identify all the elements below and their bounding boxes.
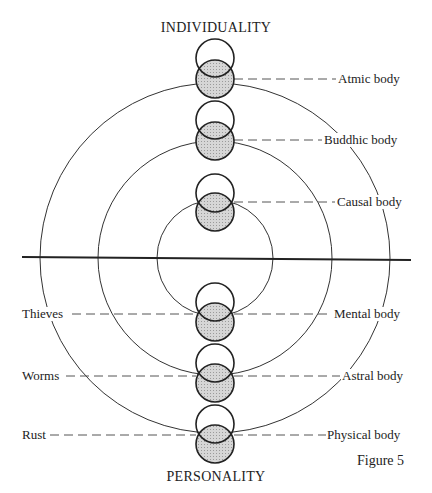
pair-astral — [196, 344, 234, 402]
pair-atmic — [196, 39, 234, 98]
bottom-label: PERSONALITY — [0, 469, 432, 485]
left-leader-lines — [50, 314, 196, 435]
label-physical-body: Physical body — [326, 428, 401, 442]
divider-line — [22, 257, 411, 260]
circle-pairs — [196, 39, 234, 463]
label-thieves: Thieves — [21, 307, 64, 321]
label-astral-body: Astral body — [341, 369, 404, 383]
pair-physical — [196, 405, 234, 463]
pair-mental — [196, 283, 234, 341]
pair-causal — [196, 174, 234, 231]
label-mental-body: Mental body — [333, 307, 401, 321]
label-rust: Rust — [21, 428, 47, 442]
figure-label: Figure 5 — [357, 453, 404, 469]
top-label: INDIVIDUALITY — [0, 20, 432, 36]
label-worms: Worms — [21, 369, 60, 383]
label-buddhic-body: Buddhic body — [323, 133, 398, 147]
label-causal-body: Causal body — [336, 195, 403, 209]
label-atmic-body: Atmic body — [337, 72, 401, 86]
pair-buddhic — [196, 101, 234, 160]
